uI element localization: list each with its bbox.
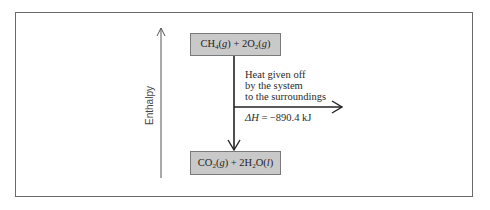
enthalpy-axis-label: Enthalpy xyxy=(144,81,155,131)
delta-h-value: ΔH = −890.4 kJ xyxy=(245,112,311,123)
enthalpy-axis-arrow xyxy=(157,28,165,178)
heat-flow-line-1: Heat given off xyxy=(245,69,326,80)
arrows-layer xyxy=(0,0,490,210)
products-box: CO2(g) + 2H2O(l) xyxy=(190,151,281,175)
products-formula: CO2(g) + 2H2O(l) xyxy=(198,157,273,170)
reactants-box: CH4(g) + 2O2(g) xyxy=(190,33,281,56)
heat-flow-description: Heat given off by the system to the surr… xyxy=(245,69,326,102)
reaction-arrow-down xyxy=(228,56,240,150)
heat-flow-line-2: by the system xyxy=(245,80,326,91)
reactants-formula: CH4(g) + 2O2(g) xyxy=(200,38,270,51)
heat-flow-line-3: to the surroundings xyxy=(245,91,326,102)
